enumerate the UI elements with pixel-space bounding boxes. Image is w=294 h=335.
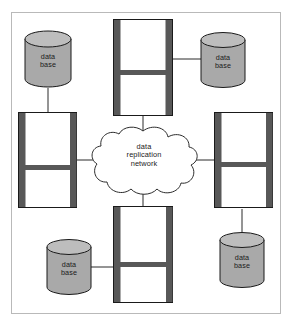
- diagram-root: data replication network data base data …: [0, 0, 294, 335]
- server-left[interactable]: [19, 113, 77, 208]
- database-bottom-right[interactable]: [220, 233, 264, 288]
- data-replication-network-cloud[interactable]: [92, 127, 197, 194]
- database-top-right[interactable]: [201, 33, 245, 88]
- server-right[interactable]: [215, 113, 273, 208]
- database-top-left[interactable]: [25, 31, 71, 87]
- database-bottom-left[interactable]: [47, 240, 91, 295]
- server-top[interactable]: [114, 20, 173, 116]
- diagram-canvas: [0, 0, 294, 335]
- server-bottom[interactable]: [114, 207, 173, 303]
